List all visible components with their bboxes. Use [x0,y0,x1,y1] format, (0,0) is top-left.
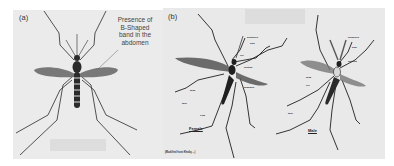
svg-text:tarsi: tarsi [288,112,293,114]
svg-text:proboscis: proboscis [348,36,360,38]
band-annotation: Presence of B-Shaped band in the abdomen [110,16,160,46]
male-caption: Male [308,128,317,133]
mosquito-illustrations: proboscis palp eye scutum abdomen wing t… [0,0,394,166]
annotation-line-2: B-Shaped [110,24,160,32]
svg-text:abdomen: abdomen [244,86,255,88]
panel-b-label: (b) [168,12,177,21]
wing-right-a [79,67,118,77]
annotation-line-4: abdomen [110,39,160,47]
svg-text:palp: palp [250,42,255,44]
svg-text:wing: wing [190,89,196,91]
svg-text:palp: palp [352,46,357,48]
citation: (Modified from Khaliq ...) [165,151,195,154]
svg-text:scutum: scutum [244,66,252,68]
svg-text:proboscis: proboscis [247,36,259,38]
wing-left-a [34,67,75,77]
male-part-labels: proboscis palp antenna wing eye tarsi [288,36,360,114]
svg-text:antenna: antenna [348,60,358,62]
svg-text:wing: wing [306,76,312,78]
female-caption: Female [189,126,203,131]
annotation-line-3: band in the [110,31,160,39]
svg-text:tarsi: tarsi [182,102,187,104]
annotation-line-1: Presence of [110,16,160,24]
panel-a-label: (a) [19,13,28,22]
svg-text:eye: eye [306,84,311,86]
svg-text:claw: claw [200,114,205,116]
svg-text:eye: eye [240,54,245,56]
